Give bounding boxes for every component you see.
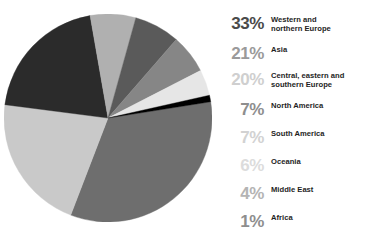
legend-label: Western andnorthern Europe: [271, 15, 373, 33]
legend-row: 1%Africa: [212, 212, 373, 234]
legend-row: 7%South America: [212, 128, 373, 154]
legend-label: Oceania: [271, 157, 373, 166]
chart-legend: 33%Western andnorthern Europe21%Asia20%C…: [212, 8, 373, 230]
legend-percent: 7%: [212, 128, 264, 148]
legend-percent: 6%: [212, 156, 264, 176]
legend-label: Central, eastern andsouthern Europe: [271, 71, 373, 89]
pie-slice-group: [4, 14, 212, 222]
legend-row: 6%Oceania: [212, 156, 373, 182]
legend-label: North America: [271, 101, 373, 110]
legend-row: 33%Western andnorthern Europe: [212, 14, 373, 40]
legend-percent: 20%: [212, 70, 264, 90]
pie-chart: [4, 14, 212, 222]
legend-row: 7%North America: [212, 100, 373, 126]
legend-row: 20%Central, eastern andsouthern Europe: [212, 70, 373, 96]
legend-percent: 1%: [212, 212, 264, 232]
legend-percent: 7%: [212, 100, 264, 120]
legend-percent: 21%: [212, 44, 264, 64]
legend-percent: 33%: [212, 14, 264, 34]
legend-row: 21%Asia: [212, 44, 373, 70]
legend-label: Middle East: [271, 185, 373, 194]
pie-chart-svg: [4, 14, 212, 222]
legend-label: Asia: [271, 45, 373, 54]
pie-slice: [5, 16, 108, 118]
legend-label: South America: [271, 129, 373, 138]
legend-percent: 4%: [212, 184, 264, 204]
legend-label: Africa: [271, 213, 373, 222]
legend-row: 4%Middle East: [212, 184, 373, 210]
